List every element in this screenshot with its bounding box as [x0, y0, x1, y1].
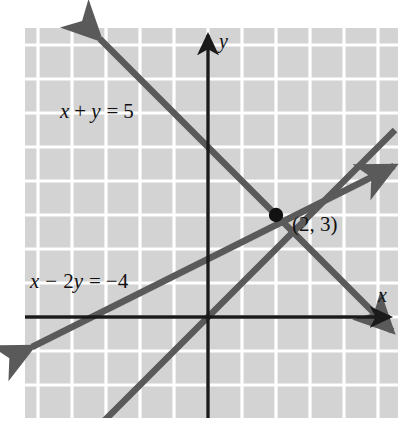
eq1-var-x: x	[59, 99, 70, 123]
eq2-operator: −	[45, 269, 57, 293]
eq2-coefficient: 2	[63, 269, 74, 293]
graph-figure: x+y=5 x−2y=−4 (2, 3) y x	[0, 0, 417, 437]
eq1-rhs: 5	[123, 99, 134, 123]
eq2-rhs: −4	[106, 269, 129, 293]
x-axis-label: x	[377, 284, 387, 306]
eq2-var-y: y	[72, 269, 84, 293]
y-axis-label: y	[217, 30, 228, 53]
coordinate-plane-svg: x+y=5 x−2y=−4 (2, 3) y x	[0, 0, 417, 437]
eq1-operator: +	[74, 99, 86, 123]
eq2-var-x: x	[29, 269, 40, 293]
eq2-equals: =	[89, 269, 101, 293]
intersection-point	[269, 208, 283, 222]
eq1-equals: =	[107, 99, 119, 123]
intersection-point-label: (2, 3)	[292, 212, 338, 236]
plot-background	[25, 28, 398, 418]
eq1-var-y: y	[89, 99, 101, 123]
